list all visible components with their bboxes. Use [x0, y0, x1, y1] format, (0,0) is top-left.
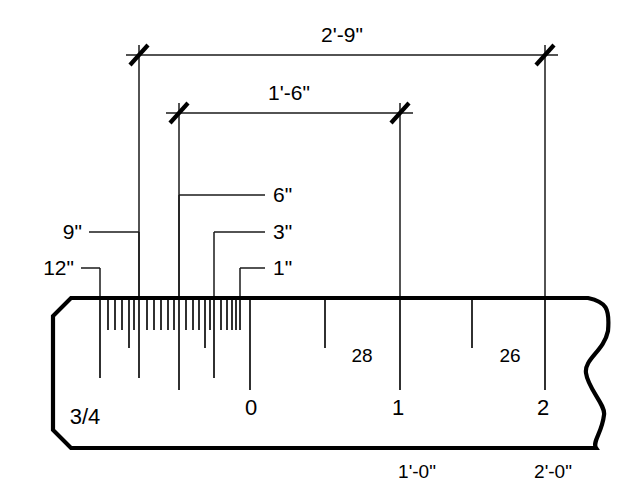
- leader-label-twelve-inch: 12": [43, 256, 74, 279]
- leader-twelve-inch: 12": [43, 256, 100, 298]
- scale-label-2: 2: [537, 395, 549, 420]
- dimension-overall: 2'-9": [126, 23, 558, 65]
- diagram-canvas: 2'-9"1'-6" 6"3"1"9"12" 3/40281262 1'-0"2…: [0, 0, 643, 503]
- scale-label-28: 28: [351, 345, 372, 366]
- leader-label-nine-inch: 9": [63, 220, 82, 243]
- foot-label-0: 1'-0": [398, 461, 436, 482]
- architects-scale-diagram: 2'-9"1'-6" 6"3"1"9"12" 3/40281262 1'-0"2…: [0, 0, 643, 503]
- dimension-lines-group: 2'-9"1'-6": [126, 23, 558, 123]
- leader-one-inch: 1": [240, 256, 292, 298]
- dimension-inner: 1'-6": [166, 81, 413, 123]
- foot-labels-group: 1'-0"2'-0": [398, 461, 572, 482]
- leader-label-six-inch: 6": [273, 183, 292, 206]
- scale-label-26: 26: [499, 345, 520, 366]
- ruler-body-group: [53, 298, 608, 448]
- leader-label-three-inch: 3": [273, 220, 292, 243]
- dimension-label-inner: 1'-6": [268, 81, 310, 104]
- leader-lines-group: 6"3"1"9"12": [43, 183, 292, 298]
- leader-nine-inch: 9": [63, 220, 139, 298]
- scale-label-1: 1: [392, 395, 404, 420]
- scale-label-3_4: 3/4: [70, 404, 101, 429]
- leader-label-one-inch: 1": [273, 256, 292, 279]
- foot-label-1: 2'-0": [534, 461, 572, 482]
- scale-label-0: 0: [245, 395, 257, 420]
- dimension-label-overall: 2'-9": [321, 23, 363, 46]
- extension-lines-group: [139, 45, 545, 298]
- ruler-body: [53, 298, 608, 448]
